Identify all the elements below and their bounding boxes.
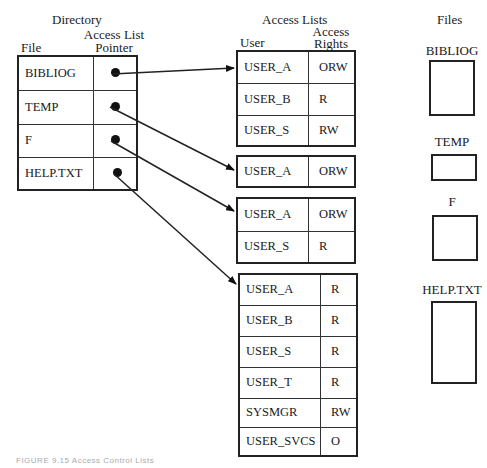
arrow-f-to-acl — [111, 141, 234, 211]
pointer-arrows — [0, 0, 487, 468]
arrow-bibliog-to-acl — [112, 68, 234, 74]
arrow-help-txt-to-acl — [114, 174, 236, 284]
arrow-temp-to-acl — [110, 107, 234, 170]
figure-caption: FIGURE 9.15 Access Control Lists — [16, 456, 154, 465]
